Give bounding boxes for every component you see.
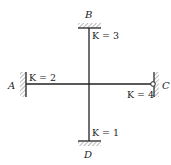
node-label-a: A xyxy=(7,80,15,91)
frame-diagram: B A C D K = 3 K = 2 K = 4 K = 1 xyxy=(0,0,171,165)
support-d-fixed xyxy=(78,141,101,146)
stiffness-label-a: K = 2 xyxy=(29,72,56,83)
pin-icon xyxy=(151,82,156,87)
stiffness-label-b: K = 3 xyxy=(92,30,119,41)
support-b-fixed xyxy=(78,23,101,28)
stiffness-label-c: K = 4 xyxy=(127,89,154,100)
support-a-fixed xyxy=(20,72,26,97)
stiffness-label-d: K = 1 xyxy=(92,127,119,138)
node-label-b: B xyxy=(84,9,92,20)
node-label-d: D xyxy=(83,149,92,160)
node-label-c: C xyxy=(162,80,170,91)
